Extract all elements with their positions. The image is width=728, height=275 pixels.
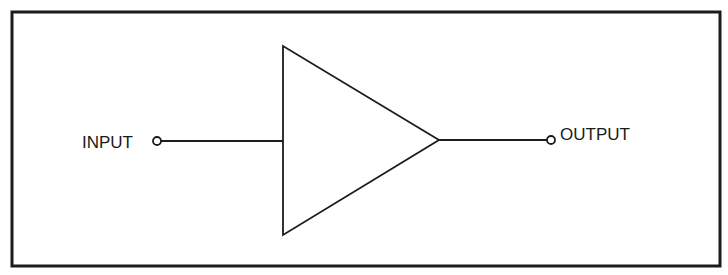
amplifier-diagram: INPUT OUTPUT (0, 0, 728, 275)
amplifier-triangle-icon (283, 46, 439, 235)
output-terminal-icon (547, 136, 555, 144)
input-label: INPUT (82, 133, 133, 152)
output-label: OUTPUT (560, 125, 630, 144)
input-terminal-icon (153, 137, 161, 145)
